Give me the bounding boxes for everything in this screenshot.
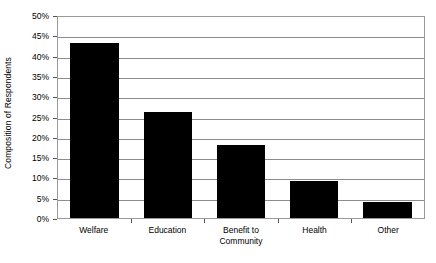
x-axis-category-label: Health	[278, 225, 352, 247]
bar	[363, 202, 411, 218]
y-axis-tick-label: 5%	[37, 194, 49, 204]
y-axis-tick-label: 15%	[32, 153, 49, 163]
bar	[217, 145, 265, 218]
y-axis-title-label: Composition of Respondents	[3, 57, 13, 169]
bar-slot	[204, 17, 277, 218]
y-axis-tick-labels: 50%45%40%35%30%25%20%15%10%5%0%	[16, 16, 54, 219]
x-axis-labels: WelfareEducationBenefit to CommunityHeal…	[57, 225, 425, 247]
bar-chart: Composition of Respondents 50%45%40%35%3…	[0, 0, 436, 263]
plot-area	[57, 16, 425, 219]
y-axis-tick-label: 40%	[32, 52, 49, 62]
bar-slot	[351, 17, 424, 218]
bar	[144, 112, 192, 218]
x-axis-category-label: Benefit to Community	[204, 225, 278, 247]
y-axis-tick-label: 0%	[37, 214, 49, 224]
x-axis-tick-mark	[351, 219, 352, 223]
x-axis-tick-mark	[204, 219, 205, 223]
bar-slot	[278, 17, 351, 218]
y-axis-tick-label: 45%	[32, 31, 49, 41]
y-axis-tick-label: 25%	[32, 113, 49, 123]
x-axis-tick-mark	[131, 219, 132, 223]
y-axis-tick-label: 35%	[32, 72, 49, 82]
bar-slot	[58, 17, 131, 218]
x-axis-category-label: Welfare	[57, 225, 131, 247]
y-axis-tick-label: 20%	[32, 133, 49, 143]
x-axis-tick-marks	[57, 219, 425, 223]
y-axis-tick-label: 10%	[32, 173, 49, 183]
x-axis-tick-mark	[278, 219, 279, 223]
bar-slot	[131, 17, 204, 218]
y-axis-title: Composition of Respondents	[0, 0, 16, 225]
bar	[70, 43, 118, 218]
bar	[290, 181, 338, 218]
y-axis-tick-label: 50%	[32, 11, 49, 21]
x-axis-category-label: Other	[351, 225, 425, 247]
bars-container	[58, 17, 424, 218]
y-axis-tick-label: 30%	[32, 92, 49, 102]
x-axis-category-label: Education	[131, 225, 205, 247]
